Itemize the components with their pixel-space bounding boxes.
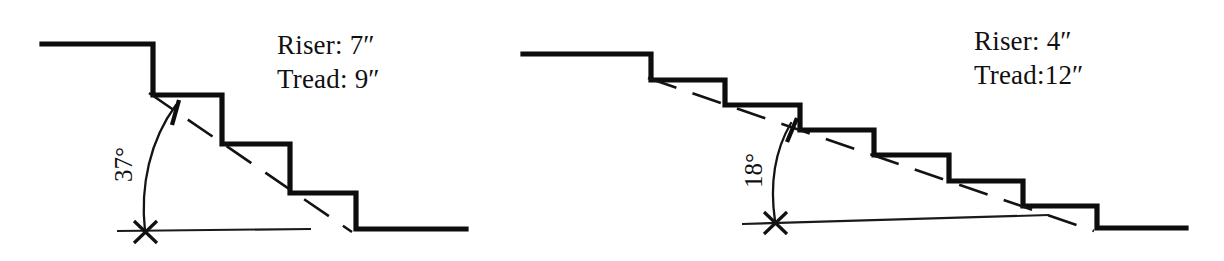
steep-slope-dashed-line [149, 93, 352, 232]
shallow-slope-dashed-line [648, 78, 1094, 231]
steep-riser-label: Riser: 7″ [277, 30, 375, 60]
shallow-riser-label: Riser: 4″ [974, 26, 1072, 56]
shallow-tread-label: Tread:12″ [974, 60, 1084, 90]
shallow-horizontal-baseline [742, 215, 1049, 224]
steep-angle-label: 37° [110, 147, 137, 182]
right-stair-diagram: 18° Riser: 4″ Tread:12″ [523, 26, 1186, 234]
steep-tread-label: Tread: 9″ [277, 64, 380, 94]
stair-comparison-figure: 37° Riser: 7″ Tread: 9″ 18° Riser: 4″ Tr… [0, 0, 1224, 261]
shallow-angle-label: 18° [740, 153, 767, 188]
stair-diagram-canvas: 37° Riser: 7″ Tread: 9″ 18° Riser: 4″ Tr… [0, 0, 1224, 261]
steep-stair-outline [42, 44, 466, 229]
left-stair-diagram: 37° Riser: 7″ Tread: 9″ [42, 30, 466, 243]
shallow-arc-end-tick [787, 118, 797, 142]
steep-arc-end-tick [172, 100, 179, 125]
shallow-stair-outline [523, 54, 1186, 228]
